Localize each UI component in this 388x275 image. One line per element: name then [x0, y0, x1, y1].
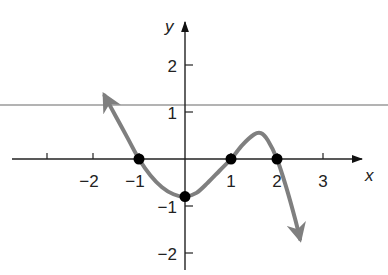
- y-tick-label: 2: [168, 57, 177, 76]
- x-tick-label: −2: [79, 172, 98, 191]
- function-graph: −2−1123 21−1−2 x y: [0, 0, 388, 275]
- x-tick-label: −1: [125, 172, 144, 191]
- marked-point: [272, 154, 283, 165]
- y-axis-ticks: 21−1−2: [158, 57, 193, 264]
- function-curve: [105, 96, 301, 239]
- marked-point: [226, 154, 237, 165]
- y-tick-label: −1: [158, 198, 177, 217]
- y-tick-label: −2: [158, 245, 177, 264]
- marked-points: [134, 154, 283, 203]
- y-tick-label: 1: [168, 104, 177, 123]
- marked-point: [134, 154, 145, 165]
- x-tick-label: 3: [318, 172, 327, 191]
- x-tick-label: 1: [226, 172, 235, 191]
- marked-point: [180, 191, 191, 202]
- x-axis-label: x: [364, 166, 374, 185]
- y-axis-label: y: [164, 17, 175, 36]
